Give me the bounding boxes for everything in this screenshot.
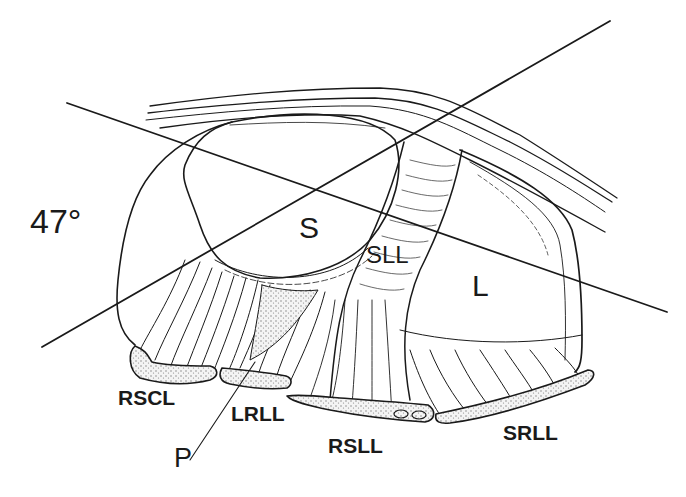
sll-band-right bbox=[405, 150, 462, 400]
sll-band-left bbox=[330, 142, 404, 400]
pointer-label-p: P bbox=[174, 445, 192, 472]
rscl-base bbox=[130, 346, 217, 384]
ligament-label-lrll: LRLL bbox=[231, 403, 285, 424]
reference-line-2 bbox=[42, 21, 610, 347]
ligament-label-rscl: RSCL bbox=[118, 387, 175, 408]
region-label-sll: SLL bbox=[366, 243, 409, 267]
ligament-label-rsll: RSLL bbox=[328, 435, 383, 456]
rscl-fibers bbox=[140, 260, 258, 375]
capsule-left-outline bbox=[117, 122, 232, 345]
anatomical-diagram bbox=[0, 0, 686, 497]
region-label-s: S bbox=[299, 213, 319, 243]
poirier-space bbox=[250, 285, 318, 360]
region-label-l: L bbox=[472, 271, 489, 301]
srll-base bbox=[436, 370, 594, 423]
rsll-base bbox=[287, 395, 434, 422]
lrll-base bbox=[220, 368, 291, 389]
ligament-label-srll: SRLL bbox=[503, 422, 558, 443]
angle-label: 47° bbox=[30, 204, 81, 238]
